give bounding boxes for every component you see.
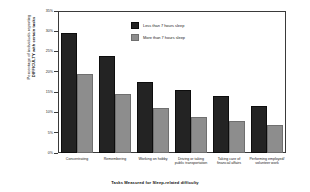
x-axis-title: Tasks Measured for Sleep-related difficu… (0, 180, 310, 185)
legend-item: Less than 7 hours sleep (131, 22, 185, 29)
y-axis-tick-label: 20% (40, 70, 53, 74)
legend-label: Less than 7 hours sleep (143, 23, 184, 28)
bar (213, 96, 229, 153)
y-axis-tick-label: 15% (40, 90, 53, 94)
bar (77, 74, 93, 153)
bar (251, 106, 267, 153)
bar-chart-figure: Percentage of individuals reporting DIFF… (0, 0, 310, 192)
bar (115, 94, 131, 153)
legend-swatch-icon (131, 34, 139, 41)
bar (99, 56, 115, 153)
x-axis-label-line: volunteer work (244, 161, 290, 165)
y-axis-tick-label: 30% (40, 29, 53, 33)
bar (191, 117, 207, 153)
legend-label: More than 7 hours sleep (143, 35, 185, 40)
bar (229, 121, 245, 153)
bar (267, 125, 283, 153)
bar (153, 108, 169, 153)
y-axis-title-line2: DIFFICULTY with certain tasks (32, 17, 37, 77)
x-axis-category-label: Performing employed/volunteer work (244, 157, 290, 166)
bar (61, 33, 77, 153)
bar (137, 82, 153, 153)
y-axis-tick-label: 35% (40, 9, 53, 13)
y-axis-tick-label: 0% (40, 151, 53, 155)
legend-swatch-icon (131, 22, 139, 29)
legend: Less than 7 hours sleep More than 7 hour… (131, 22, 185, 45)
y-axis-tick-label: 10% (40, 110, 53, 114)
y-axis-tick-label: 5% (40, 131, 53, 135)
bar (175, 90, 191, 153)
y-axis-tick-label: 25% (40, 49, 53, 53)
legend-item: More than 7 hours sleep (131, 34, 185, 41)
